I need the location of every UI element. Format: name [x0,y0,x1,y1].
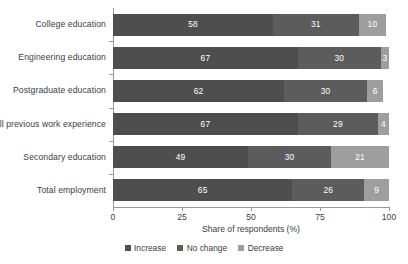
bar-segment-decrease: 4 [378,113,389,135]
bar-segment-nochange: 26 [292,179,364,201]
bar-segment-value: 62 [194,87,204,95]
bar-segment-nochange: 30 [248,146,331,168]
bar-segment-value: 4 [381,120,386,128]
bar-segment-decrease: 21 [331,146,389,168]
bar-segment-value: 6 [373,87,378,95]
bar-group-container: College education583110Engineering educa… [113,8,389,207]
legend-label: Decrease [248,244,284,252]
x-axis-tick [182,207,183,211]
legend-swatch-icon [125,245,131,251]
bar-segment-increase: 67 [113,113,298,135]
bar-segment-value: 58 [188,20,198,28]
x-axis-tick-label: 100 [382,212,396,222]
bar-segment-value: 29 [333,120,343,128]
category-label: Secondary education [23,141,106,174]
stacked-bar-chart: College education583110Engineering educa… [0,0,408,264]
bar-row: Secondary education493021 [113,141,389,174]
category-label: All previous work experience [0,108,106,141]
category-label: Engineering education [18,41,106,74]
x-axis-title: Share of respondents (%) [113,224,389,234]
bar-segment-value: 3 [382,54,387,62]
legend-item-increase[interactable]: Increase [125,244,167,252]
bar-segment-increase: 49 [113,146,248,168]
category-label: Total employment [37,174,106,207]
x-axis-tick-label: 75 [315,212,325,222]
bar-segment-nochange: 30 [284,80,367,102]
bar-segment-decrease: 6 [367,80,384,102]
bar-row: College education583110 [113,8,389,41]
bar-segment-increase: 58 [113,14,273,36]
x-axis-tick [389,207,390,211]
bar-segment-increase: 67 [113,47,298,69]
y-axis-tick [109,174,113,175]
plot-area: College education583110Engineering educa… [113,8,389,207]
y-axis-tick [109,141,113,142]
x-axis-tick [320,207,321,211]
x-axis-tick [113,207,114,211]
y-axis-tick [109,41,113,42]
x-axis-tick-label: 25 [177,212,187,222]
x-axis-tick [251,207,252,211]
bar-segment-value: 31 [311,20,321,28]
stacked-bar: 67294 [113,113,389,135]
bar-segment-value: 30 [321,87,331,95]
legend-swatch-icon [177,245,183,251]
bar-segment-value: 67 [201,54,211,62]
bar-segment-decrease: 3 [381,47,389,69]
bar-segment-value: 10 [368,20,378,28]
bar-segment-value: 67 [201,120,211,128]
legend-item-decrease[interactable]: Decrease [238,244,283,252]
y-axis-tick [109,74,113,75]
stacked-bar: 493021 [113,146,389,168]
legend-label: No change [187,244,228,252]
bar-segment-value: 21 [355,153,365,161]
legend-item-nochange[interactable]: No change [177,244,227,252]
stacked-bar: 583110 [113,14,386,36]
bar-segment-increase: 65 [113,179,292,201]
stacked-bar: 65269 [113,179,389,201]
chart-legend: IncreaseNo changeDecrease [0,244,408,252]
bar-segment-decrease: 9 [364,179,389,201]
legend-label: Increase [134,244,166,252]
y-axis-tick [109,108,113,109]
category-label: College education [35,8,106,41]
bar-segment-value: 49 [176,153,186,161]
bar-segment-value: 65 [198,186,208,194]
category-label: Postgraduate education [13,74,106,107]
stacked-bar: 62306 [113,80,383,102]
bar-segment-decrease: 10 [359,14,387,36]
legend-swatch-icon [238,245,244,251]
stacked-bar: 67303 [113,47,389,69]
bar-segment-nochange: 29 [298,113,378,135]
bar-segment-value: 30 [334,54,344,62]
x-axis-tick-label: 0 [111,212,116,222]
x-axis-tick-label: 50 [246,212,256,222]
bar-segment-value: 30 [285,153,295,161]
bar-row: All previous work experience67294 [113,108,389,141]
bar-row: Postgraduate education62306 [113,74,389,107]
bar-segment-nochange: 31 [273,14,359,36]
bar-row: Engineering education67303 [113,41,389,74]
bar-segment-nochange: 30 [298,47,381,69]
bar-segment-value: 26 [323,186,333,194]
bar-row: Total employment65269 [113,174,389,207]
bar-segment-value: 9 [374,186,379,194]
bar-segment-increase: 62 [113,80,284,102]
